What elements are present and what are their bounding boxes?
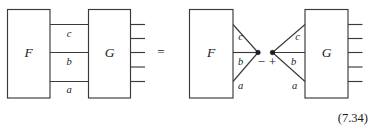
rhs2-wire-a	[273, 53, 306, 82]
rhs1-box-F-label: F	[206, 45, 216, 60]
lhs-edge-label-c: c	[67, 28, 72, 39]
rhs2-edge-label-b: b	[291, 56, 296, 67]
equals-operator: =	[157, 44, 164, 59]
rhs2-edge-label-c: c	[295, 31, 300, 42]
minus-operator: −	[258, 54, 265, 69]
rhs1-edge-label-c: c	[238, 31, 243, 42]
equation-figure: F G c b a = F	[0, 0, 374, 133]
plus-operator: +	[269, 54, 276, 69]
rhs1-wire-a	[233, 53, 258, 82]
rhs1-edge-label-a: a	[238, 80, 243, 91]
lhs-box-F-label: F	[24, 45, 34, 60]
lhs-edge-label-a: a	[66, 84, 71, 95]
rhs-term-two-group: + G c b a	[269, 10, 363, 99]
rhs2-vertex-dot	[270, 50, 275, 55]
rhs1-edge-label-b: b	[238, 56, 243, 67]
equation-number: (7.34)	[338, 111, 368, 125]
rhs2-wire-c	[273, 25, 306, 53]
lhs-edge-label-b: b	[66, 56, 71, 67]
rhs2-box-G-label: G	[322, 45, 332, 60]
lhs-box-G-label: G	[105, 45, 115, 60]
rhs2-edge-label-a: a	[292, 80, 297, 91]
tensor-network-diagram: F G c b a = F	[0, 0, 374, 133]
lhs-group: F G c b a	[8, 10, 146, 99]
rhs-term-one-group: F c b a −	[190, 10, 266, 99]
rhs1-wire-c	[233, 25, 258, 53]
